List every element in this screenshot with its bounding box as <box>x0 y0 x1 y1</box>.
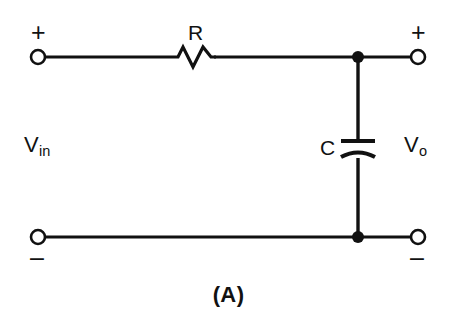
output-voltage-symbol: V <box>404 132 419 157</box>
figure-caption: (A) <box>0 284 457 306</box>
terminal-input-negative <box>31 230 45 244</box>
capacitor-plate-bottom <box>341 153 375 158</box>
capacitor-label: C <box>320 137 335 158</box>
input-positive-sign: + <box>31 20 46 45</box>
input-voltage-label: Vin <box>24 134 50 156</box>
output-voltage-subscript: o <box>419 143 427 159</box>
output-negative-sign: – <box>410 245 424 270</box>
junction-dot-top <box>352 51 364 63</box>
circuit-figure: R C + + – – Vin Vo (A) <box>0 0 457 323</box>
resistor-symbol <box>173 47 216 67</box>
output-voltage-label: Vo <box>404 134 427 156</box>
input-voltage-subscript: in <box>39 143 50 159</box>
input-voltage-symbol: V <box>24 132 39 157</box>
terminal-output-positive <box>411 50 425 64</box>
output-positive-sign: + <box>411 20 426 45</box>
circuit-schematic-canvas <box>0 0 457 323</box>
resistor-label: R <box>188 22 203 43</box>
junction-dot-bottom <box>352 231 364 243</box>
terminal-input-positive <box>31 50 45 64</box>
terminal-output-negative <box>411 230 425 244</box>
input-negative-sign: – <box>30 245 44 270</box>
